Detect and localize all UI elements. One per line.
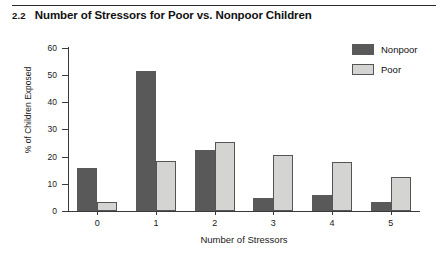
- legend-swatch-poor: [352, 64, 374, 75]
- x-axis-line: [68, 211, 420, 212]
- y-tick-label-20: 20: [0, 152, 57, 162]
- x-tick-0: [97, 211, 98, 215]
- legend-item-nonpoor: Nonpoor: [352, 44, 442, 55]
- bar-chart: % of Children Exposed Number of Stressor…: [0, 0, 448, 262]
- x-tick-4: [332, 211, 333, 215]
- bar-nonpoor-1: [136, 71, 156, 211]
- bar-nonpoor-4: [312, 195, 332, 211]
- y-tick-label-40: 40: [0, 97, 57, 107]
- x-tick-label-4: 4: [312, 218, 352, 228]
- x-tick-label-2: 2: [195, 218, 235, 228]
- x-tick-label-5: 5: [371, 218, 411, 228]
- y-tick-60: [62, 48, 69, 49]
- y-tick-40: [62, 102, 69, 103]
- y-tick-label-60: 60: [0, 43, 57, 53]
- legend-label-poor: Poor: [381, 64, 401, 75]
- y-tick-label-10: 10: [0, 179, 57, 189]
- bar-nonpoor-3: [253, 198, 273, 211]
- x-tick-2: [215, 211, 216, 215]
- x-tick-label-1: 1: [136, 218, 176, 228]
- y-tick-50: [62, 75, 69, 76]
- x-tick-3: [273, 211, 274, 215]
- legend-item-poor: Poor: [352, 64, 442, 75]
- y-tick-10: [62, 184, 69, 185]
- x-tick-label-0: 0: [77, 218, 117, 228]
- chart-legend: Nonpoor Poor: [352, 44, 442, 84]
- y-tick-label-0: 0: [0, 206, 57, 216]
- bar-nonpoor-5: [371, 202, 391, 211]
- x-tick-1: [156, 211, 157, 215]
- bar-poor-0: [97, 202, 117, 211]
- x-tick-label-3: 3: [253, 218, 293, 228]
- legend-label-nonpoor: Nonpoor: [381, 44, 417, 55]
- y-tick-0: [62, 211, 69, 212]
- x-axis-title: Number of Stressors: [68, 234, 420, 245]
- bar-nonpoor-2: [195, 150, 215, 211]
- x-tick-5: [391, 211, 392, 215]
- bar-poor-3: [273, 155, 293, 211]
- bar-poor-2: [215, 142, 235, 211]
- y-tick-30: [62, 129, 69, 130]
- bar-nonpoor-0: [77, 168, 97, 211]
- y-tick-20: [62, 157, 69, 158]
- bar-poor-5: [391, 177, 411, 211]
- bar-poor-1: [156, 161, 176, 211]
- y-tick-label-30: 30: [0, 124, 57, 134]
- y-tick-label-50: 50: [0, 70, 57, 80]
- bar-poor-4: [332, 162, 352, 211]
- legend-swatch-nonpoor: [352, 44, 374, 55]
